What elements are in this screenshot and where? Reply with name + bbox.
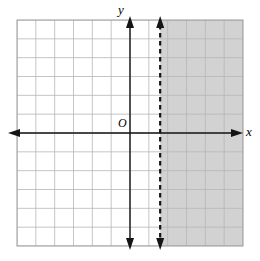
coordinate-plane-figure: y x O [0, 0, 260, 261]
y-axis-label: y [118, 3, 124, 16]
graph-canvas [0, 0, 260, 261]
x-axis-label: x [246, 125, 252, 138]
origin-label: O [118, 117, 127, 129]
x-axis-left-arrowhead [8, 129, 20, 137]
